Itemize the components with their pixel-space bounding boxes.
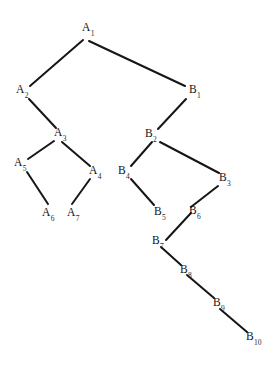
tree-node-a5: A5 — [14, 157, 26, 172]
tree-node-b10: B10 — [246, 331, 261, 346]
tree-node-a3: A3 — [54, 127, 66, 142]
tree-node-b6: B6 — [189, 205, 200, 220]
node-subscript: 2 — [153, 135, 157, 144]
node-subscript: 6 — [197, 212, 201, 221]
node-subscript: 9 — [221, 304, 225, 313]
node-base-letter: B — [219, 171, 227, 183]
node-base-letter: A — [67, 206, 75, 218]
tree-node-b8: B8 — [180, 264, 191, 279]
node-subscript: 3 — [63, 134, 67, 143]
node-subscript: 4 — [98, 172, 102, 181]
tree-node-b5: B5 — [154, 206, 165, 221]
node-subscript: 5 — [23, 164, 27, 173]
node-base-letter: A — [16, 83, 24, 95]
node-subscript: 2 — [25, 91, 29, 100]
tree-node-b1: B1 — [189, 84, 200, 99]
tree-node-a2: A2 — [16, 84, 28, 99]
node-base-letter: B — [154, 205, 162, 217]
node-base-letter: A — [14, 156, 22, 168]
node-base-letter: B — [180, 263, 188, 275]
node-base-letter: B — [213, 296, 221, 308]
tree-node-b3: B3 — [219, 172, 230, 187]
node-base-letter: B — [189, 204, 197, 216]
node-base-letter: B — [118, 164, 126, 176]
node-layer: A1A2A3A4A5A6A7B1B2B3B4B5B6B7B8B9B10 — [0, 0, 277, 374]
node-base-letter: B — [189, 83, 197, 95]
tree-diagram: A1A2A3A4A5A6A7B1B2B3B4B5B6B7B8B9B10 — [0, 0, 277, 374]
node-subscript: 6 — [51, 214, 55, 223]
tree-node-b4: B4 — [118, 165, 129, 180]
tree-node-b2: B2 — [145, 128, 156, 143]
node-base-letter: A — [54, 126, 62, 138]
node-base-letter: B — [145, 127, 153, 139]
node-subscript: 5 — [162, 213, 166, 222]
node-base-letter: A — [89, 164, 97, 176]
node-subscript: 10 — [254, 338, 262, 347]
tree-node-a4: A4 — [89, 165, 101, 180]
tree-node-a7: A7 — [67, 207, 79, 222]
tree-node-b7: B7 — [152, 235, 163, 250]
node-subscript: 4 — [126, 172, 130, 181]
node-base-letter: B — [246, 330, 254, 342]
tree-node-b9: B9 — [213, 297, 224, 312]
tree-node-a6: A6 — [42, 207, 54, 222]
node-subscript: 7 — [76, 214, 80, 223]
node-base-letter: B — [152, 234, 160, 246]
node-subscript: 3 — [227, 179, 231, 188]
node-subscript: 1 — [91, 29, 95, 38]
node-base-letter: A — [82, 21, 90, 33]
tree-node-a1: A1 — [82, 22, 94, 37]
node-subscript: 1 — [197, 91, 201, 100]
node-subscript: 7 — [160, 242, 164, 251]
node-base-letter: A — [42, 206, 50, 218]
node-subscript: 8 — [188, 271, 192, 280]
